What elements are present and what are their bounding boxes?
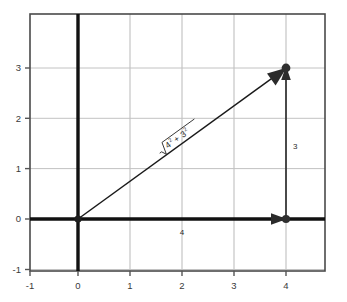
xtick-label-4: 4: [283, 280, 288, 291]
vector-addition-figure: 3 2 1 0 -1 -1 0 1 2 3 4 4 3 4 2 + 3 2: [0, 0, 347, 302]
marker-origin: [74, 215, 81, 222]
xtick-label-2: 2: [179, 280, 184, 291]
plot-canvas: 3 2 1 0 -1 -1 0 1 2 3 4 4 3 4 2 + 3 2: [0, 0, 347, 302]
ytick-label-3: 3: [16, 62, 21, 73]
ytick-label-1: 1: [16, 163, 21, 174]
y-component-label: 3: [293, 142, 298, 151]
marker-x-component-end: [282, 215, 290, 223]
xtick-label-0: 0: [75, 280, 80, 291]
xtick-label-1: 1: [127, 280, 132, 291]
marker-vector-tip: [282, 64, 291, 73]
ytick-label-0: 0: [16, 213, 21, 224]
x-component-label: 4: [180, 228, 185, 237]
ytick-label-minus-1: -1: [13, 264, 21, 275]
xtick-label-minus-1: -1: [26, 280, 34, 291]
xtick-label-3: 3: [231, 280, 236, 291]
ytick-label-2: 2: [16, 113, 21, 124]
